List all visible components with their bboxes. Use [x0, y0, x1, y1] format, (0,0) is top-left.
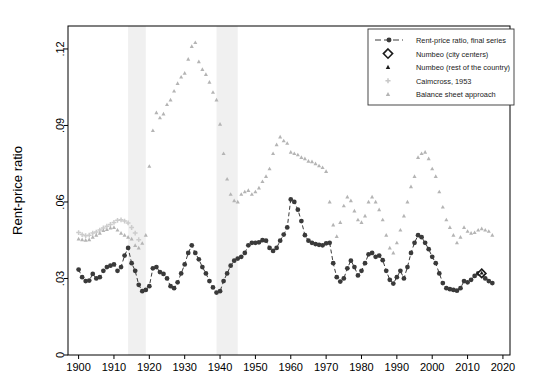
- data-point: [87, 278, 92, 283]
- data-point: [420, 151, 424, 155]
- data-point: [476, 228, 480, 232]
- data-point: [242, 251, 247, 256]
- y-tick-label: 0: [54, 352, 66, 358]
- data-point: [412, 240, 417, 245]
- data-point: [433, 261, 438, 266]
- data-point: [455, 241, 459, 245]
- data-point: [331, 261, 336, 266]
- data-point: [207, 279, 212, 284]
- data-point: [161, 272, 166, 277]
- data-point: [345, 266, 350, 271]
- data-point: [161, 112, 165, 116]
- data-point: [147, 284, 152, 289]
- data-point: [80, 275, 85, 280]
- data-point: [115, 268, 120, 273]
- y-axis-title: Rent-price ratio: [10, 146, 25, 235]
- data-point: [342, 204, 346, 208]
- data-point: [363, 261, 368, 266]
- data-point: [169, 98, 173, 102]
- data-point: [77, 237, 81, 241]
- data-point: [490, 233, 494, 237]
- data-point: [154, 265, 159, 270]
- data-point: [84, 238, 88, 242]
- data-point: [469, 231, 473, 235]
- data-point: [303, 156, 307, 160]
- data-point: [440, 281, 445, 286]
- x-tick-label: 1960: [279, 361, 303, 373]
- data-point: [264, 174, 268, 178]
- data-point: [324, 169, 328, 173]
- data-point: [437, 271, 442, 276]
- data-point: [398, 228, 402, 232]
- data-point: [274, 246, 279, 251]
- data-point: [225, 271, 230, 276]
- data-point: [374, 200, 378, 204]
- data-point: [292, 200, 297, 205]
- data-point: [370, 195, 374, 199]
- data-point: [119, 265, 124, 270]
- data-point: [334, 275, 339, 280]
- data-point: [381, 218, 385, 222]
- data-point: [80, 238, 84, 242]
- data-point: [413, 174, 417, 178]
- data-point: [387, 277, 392, 282]
- data-point: [260, 179, 264, 183]
- data-point: [218, 289, 223, 294]
- y-tick-label: .06: [54, 194, 66, 209]
- chart-canvas: 0.03.06.09.12190019101920193019401950196…: [0, 0, 537, 392]
- data-point: [409, 185, 413, 189]
- data-point: [158, 116, 162, 120]
- y-tick-label: .09: [54, 118, 66, 133]
- data-point: [394, 275, 399, 280]
- data-point: [419, 235, 424, 240]
- data-point: [122, 253, 127, 258]
- data-point: [328, 200, 332, 204]
- data-point: [179, 75, 183, 79]
- x-tick-label: 1900: [66, 361, 90, 373]
- data-point: [176, 81, 180, 85]
- x-tick-label: 1970: [314, 361, 338, 373]
- data-point: [380, 258, 385, 263]
- data-point: [423, 150, 427, 154]
- data-point: [321, 165, 325, 169]
- data-point: [391, 281, 396, 286]
- data-point: [278, 238, 283, 243]
- data-point: [200, 265, 205, 270]
- data-point: [441, 205, 445, 209]
- data-point: [462, 225, 466, 229]
- data-point: [190, 44, 194, 48]
- y-tick-label: .12: [54, 41, 66, 56]
- data-point: [271, 151, 275, 155]
- data-point: [384, 268, 389, 273]
- data-point: [469, 277, 474, 282]
- data-point: [388, 246, 392, 250]
- data-point: [367, 200, 371, 204]
- data-point: [154, 111, 158, 115]
- data-point: [243, 190, 247, 194]
- data-point: [370, 251, 375, 256]
- data-point: [165, 102, 169, 106]
- data-point: [356, 218, 360, 222]
- x-tick-label: 1990: [385, 361, 409, 373]
- data-point: [430, 167, 434, 171]
- data-point: [182, 262, 187, 267]
- data-point: [451, 233, 455, 237]
- data-point: [257, 186, 261, 190]
- data-point: [211, 285, 216, 290]
- data-point: [409, 251, 414, 256]
- data-point: [352, 209, 356, 213]
- data-point: [473, 230, 477, 234]
- data-point: [345, 195, 349, 199]
- data-point: [112, 262, 117, 267]
- x-tick-label: 2020: [491, 361, 515, 373]
- x-tick-label: 2010: [455, 361, 479, 373]
- x-tick-label: 1920: [137, 361, 161, 373]
- data-point: [434, 174, 438, 178]
- x-tick-label: 1950: [243, 361, 267, 373]
- data-point: [147, 164, 151, 168]
- data-point: [179, 271, 184, 276]
- data-point: [349, 199, 353, 203]
- data-point: [405, 265, 410, 270]
- data-point: [87, 238, 91, 242]
- data-point: [444, 218, 448, 222]
